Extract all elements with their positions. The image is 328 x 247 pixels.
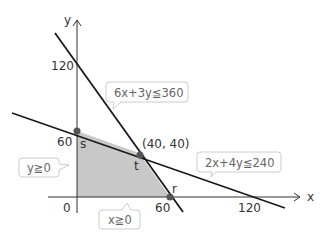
y-axis-label: y <box>64 13 71 27</box>
point-t <box>137 152 144 159</box>
callout-y-nonneg-text: y≧0 <box>27 161 51 175</box>
callout-2x-4y: 2x+4y≦240 <box>197 152 281 177</box>
callout-6x-3y: 6x+3y≦360 <box>106 82 188 109</box>
point-s <box>74 128 81 135</box>
point-t-label: t <box>134 159 139 173</box>
callout-2x-4y-text: 2x+4y≦240 <box>205 156 274 170</box>
callout-x-nonneg: x≧0 <box>99 203 140 229</box>
origin-label: 0 <box>63 201 71 215</box>
y-tick-120: 120 <box>51 59 74 73</box>
x-axis-label: x <box>307 190 314 204</box>
point-r-label: r <box>172 182 177 196</box>
point-t-coord-label: (40, 40) <box>142 137 190 151</box>
callout-x-nonneg-text: x≧0 <box>108 213 132 227</box>
point-s-label: s <box>80 137 86 151</box>
x-tick-120: 120 <box>238 201 261 215</box>
lp-diagram: x y 0 60 120 120 60 s t r (40, 40) 6x+3y… <box>0 0 328 247</box>
callout-6x-3y-text: 6x+3y≦360 <box>114 86 183 100</box>
y-tick-60: 60 <box>57 135 72 149</box>
callout-y-nonneg: y≧0 <box>19 158 69 177</box>
x-tick-60: 60 <box>155 201 170 215</box>
